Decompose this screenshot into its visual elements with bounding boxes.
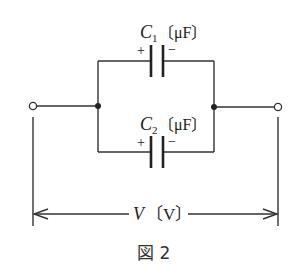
c1-plus-sign: + — [137, 43, 145, 58]
c2-label: C 2 〔μF〕 — [140, 114, 207, 136]
c1-label: C 1 〔μF〕 — [140, 22, 207, 44]
figure-caption: 図 2 — [137, 243, 170, 263]
svg-text:2: 2 — [152, 124, 158, 136]
voltage-label: V 〔V〕 — [133, 204, 192, 224]
c1-minus-sign: − — [168, 42, 176, 57]
right-terminal-icon — [274, 103, 281, 110]
circuit-diagram: + − + − C 1 〔μF〕 C 2 〔μF〕 V 〔V〕 図 2 — [0, 0, 304, 277]
left-terminal-icon — [29, 102, 36, 109]
svg-text:〔μF〕: 〔μF〕 — [158, 24, 207, 42]
c2-plus-sign: + — [137, 135, 145, 150]
c2-minus-sign: − — [168, 134, 176, 149]
svg-text:〔V〕: 〔V〕 — [146, 205, 192, 224]
svg-text:〔μF〕: 〔μF〕 — [158, 116, 207, 134]
right-junction-dot — [211, 104, 217, 110]
svg-text:1: 1 — [152, 32, 158, 44]
left-junction-dot — [95, 103, 101, 109]
svg-text:V: V — [133, 204, 146, 224]
